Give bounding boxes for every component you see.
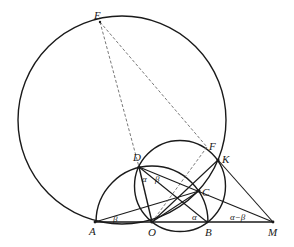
point-D bbox=[137, 165, 140, 168]
segment-DB bbox=[139, 167, 207, 222]
point-M bbox=[272, 221, 275, 224]
point-K bbox=[216, 158, 219, 161]
angle-label-B-alpha: α bbox=[192, 212, 197, 222]
circle-DOK bbox=[135, 141, 226, 232]
point-A bbox=[94, 221, 97, 224]
label-K: K bbox=[221, 153, 230, 165]
label-B: B bbox=[205, 226, 212, 238]
point-C bbox=[197, 189, 200, 192]
point-B bbox=[206, 221, 209, 224]
label-E: E bbox=[93, 9, 101, 21]
angle-label-A-beta: β bbox=[112, 214, 118, 224]
segment-EF-dashed bbox=[100, 22, 207, 147]
point-O bbox=[150, 220, 153, 223]
point-E bbox=[99, 21, 101, 23]
label-D: D bbox=[132, 151, 141, 163]
geometry-diagram: E A O B M D C K F α β β α α−β bbox=[0, 0, 294, 247]
label-F: F bbox=[208, 140, 216, 152]
segment-KM bbox=[218, 160, 273, 222]
label-A: A bbox=[88, 225, 96, 237]
segment-ED-dashed bbox=[100, 22, 139, 167]
label-M: M bbox=[267, 226, 278, 238]
angle-label-D-beta: β bbox=[154, 174, 160, 184]
angle-label-M-alpha-minus-beta: α−β bbox=[230, 212, 246, 222]
label-C: C bbox=[202, 186, 210, 198]
angle-label-D-alpha: α bbox=[142, 174, 147, 184]
label-O: O bbox=[148, 226, 156, 238]
